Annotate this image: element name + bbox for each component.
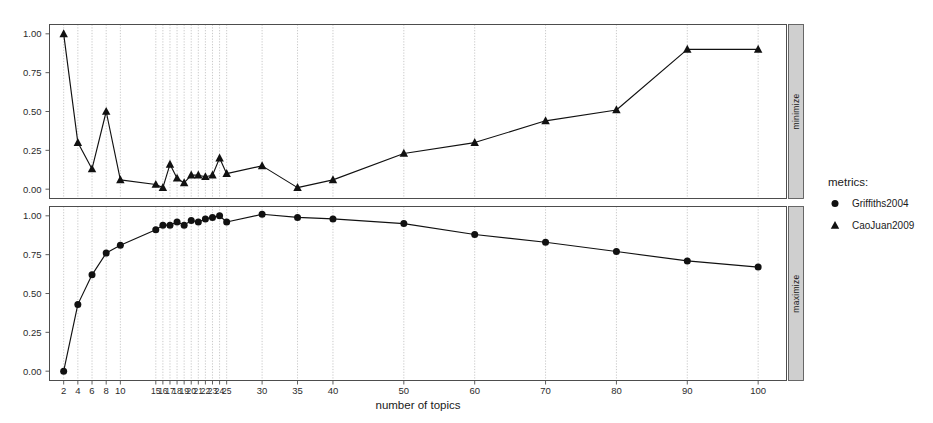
data-point [117, 242, 124, 249]
data-point [181, 222, 188, 229]
x-tick-label: 2 [61, 385, 66, 396]
x-tick-label: 10 [115, 385, 126, 396]
data-point [471, 231, 478, 238]
x-tick-label: 70 [540, 385, 551, 396]
x-tick-label: 50 [399, 385, 410, 396]
data-point [89, 271, 96, 278]
legend-label: Griffiths2004 [852, 198, 909, 209]
data-point [329, 215, 336, 222]
x-tick-label: 8 [104, 385, 109, 396]
y-tick-label: 0.75 [23, 67, 42, 78]
y-tick-label: 0.50 [23, 106, 42, 117]
x-tick-label: 40 [328, 385, 339, 396]
strip-minimize-label: minimize [791, 94, 801, 130]
y-tick-label: 0.25 [23, 145, 42, 156]
data-point [400, 220, 407, 227]
x-tick-label: 90 [682, 385, 693, 396]
legend-label: CaoJuan2009 [852, 220, 915, 231]
data-point [542, 239, 549, 246]
data-point [103, 250, 110, 257]
data-point [195, 219, 202, 226]
x-tick-label: 25 [222, 386, 232, 396]
legend-title: metrics: [828, 176, 868, 188]
x-tick-label: 30 [257, 385, 268, 396]
data-point [223, 219, 230, 226]
data-point [174, 219, 181, 226]
data-point [755, 264, 762, 271]
x-tick-label: 60 [469, 385, 480, 396]
y-tick-label: 1.00 [23, 28, 42, 39]
x-axis-title: number of topics [375, 399, 460, 411]
data-point [152, 226, 159, 233]
x-tick-label: 100 [750, 385, 766, 396]
data-point [613, 248, 620, 255]
data-point [294, 214, 301, 221]
x-tick-label: 6 [89, 385, 94, 396]
y-tick-label: 0.25 [23, 327, 42, 338]
x-tick-label: 4 [75, 385, 80, 396]
y-tick-label: 0.00 [23, 184, 42, 195]
y-tick-label: 1.00 [23, 210, 42, 221]
data-point [188, 217, 195, 224]
data-point [159, 222, 166, 229]
strip-maximize-label: maximize [791, 274, 801, 312]
data-point [216, 212, 223, 219]
data-point [202, 215, 209, 222]
legend-marker-circle [832, 200, 839, 207]
data-point [60, 368, 67, 375]
y-tick-label: 0.00 [23, 366, 42, 377]
data-point [166, 222, 173, 229]
x-tick-label: 80 [611, 385, 622, 396]
y-tick-label: 0.75 [23, 249, 42, 260]
x-tick-label: 35 [292, 385, 303, 396]
data-point [74, 301, 81, 308]
y-tick-label: 0.50 [23, 288, 42, 299]
data-point [259, 211, 266, 218]
data-point [209, 214, 216, 221]
topic-model-metrics-chart: 0.000.250.500.751.00minimize 0.000.250.5… [0, 0, 933, 423]
data-point [684, 257, 691, 264]
